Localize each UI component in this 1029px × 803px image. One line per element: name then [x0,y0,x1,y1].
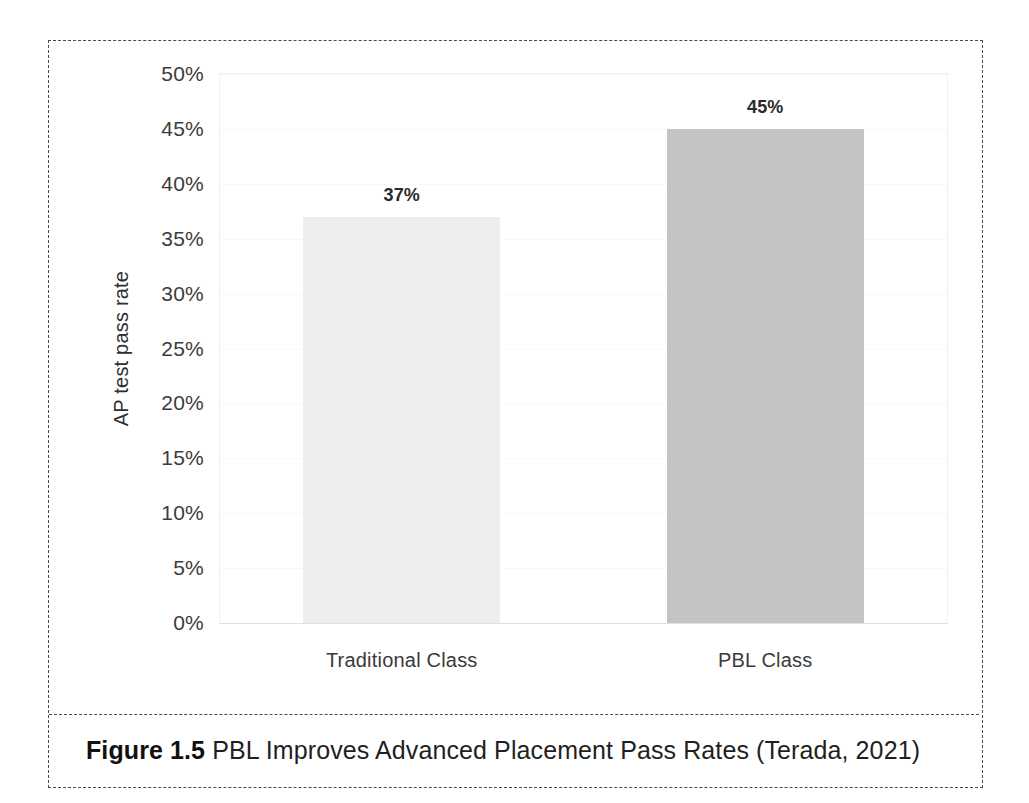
y-axis-tick-label: 20% [161,391,220,415]
y-axis-tick-label: 30% [161,282,220,306]
chart-region: AP test pass rate 50%45%40%35%30%25%20%1… [49,41,982,714]
bar-traditional-class[interactable]: 37% [303,217,500,623]
figure-caption: Figure 1.5 PBL Improves Advanced Placeme… [49,714,979,787]
y-axis-title-label: AP test pass rate [111,271,134,426]
x-axis-tick-label: Traditional Class [220,649,584,672]
plot-area: 50%45%40%35%30%25%20%15%10%5%0%37%Tradit… [219,73,948,624]
figure-caption-text: Figure 1.5 PBL Improves Advanced Placeme… [86,736,920,765]
y-axis-tick-label: 40% [161,172,220,196]
bar-value-label: 37% [303,185,500,206]
y-axis-tick-label: 35% [161,227,220,251]
y-axis-tick-label: 25% [161,337,220,361]
figure-caption-label: Figure 1.5 [86,736,205,764]
y-axis-tick-label: 50% [161,62,220,86]
y-axis-title: AP test pass rate [107,73,137,624]
y-axis-tick-label: 0% [173,611,220,635]
y-axis-tick-label: 15% [161,446,220,470]
y-axis-tick-label: 45% [161,117,220,141]
figure-caption-body: PBL Improves Advanced Placement Pass Rat… [205,736,920,764]
y-axis-tick-label: 10% [161,501,220,525]
figure-frame: AP test pass rate 50%45%40%35%30%25%20%1… [48,40,983,788]
y-axis-tick-label: 5% [173,556,220,580]
x-axis-tick-label: PBL Class [584,649,948,672]
gridline [220,74,947,75]
gridline [220,623,947,624]
bar-pbl-class[interactable]: 45% [667,129,864,623]
bar-value-label: 45% [667,97,864,118]
